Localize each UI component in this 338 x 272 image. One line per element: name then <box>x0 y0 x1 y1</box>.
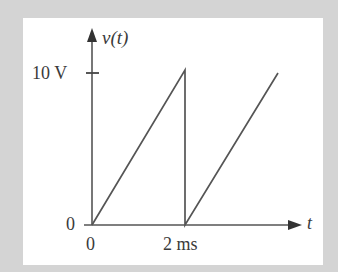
sawtooth-line <box>92 70 278 225</box>
sawtooth-plot <box>0 0 338 272</box>
x-axis-label: t <box>307 214 312 232</box>
y-tick-label-0: 0 <box>66 215 75 233</box>
x-axis-arrow-icon <box>288 220 302 230</box>
y-axis-arrow-icon <box>87 28 97 42</box>
y-tick-label-10v: 10 V <box>32 64 67 82</box>
y-axis-label: v(t) <box>102 29 128 47</box>
x-tick-label-0: 0 <box>86 235 95 253</box>
x-tick-label-2ms: 2 ms <box>163 235 198 253</box>
